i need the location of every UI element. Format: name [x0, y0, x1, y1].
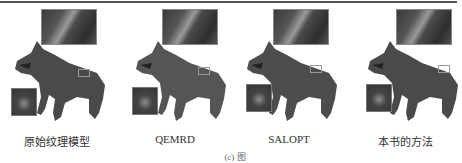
zoom-inset-bottom — [366, 84, 392, 112]
caption-salopt: SALOPT — [232, 133, 346, 145]
panel-ours — [342, 5, 456, 125]
caption-original: 原始纹理模型 — [0, 133, 114, 149]
top-rule — [0, 1, 457, 3]
panel-qemrd — [120, 5, 234, 125]
zoom-inset-bottom — [246, 84, 272, 112]
region-marker — [310, 65, 322, 73]
caption-ours: 本书的方法 — [348, 133, 462, 149]
region-marker — [198, 67, 210, 75]
zoom-inset-bottom — [132, 87, 158, 115]
region-marker — [78, 69, 90, 77]
caption-qemrd: QEMRD — [118, 133, 232, 145]
region-marker — [438, 65, 450, 73]
figure-label: (c) 图 — [215, 150, 255, 163]
panel-original — [4, 5, 118, 125]
zoom-inset-bottom — [11, 88, 37, 116]
panel-salopt — [236, 5, 350, 125]
